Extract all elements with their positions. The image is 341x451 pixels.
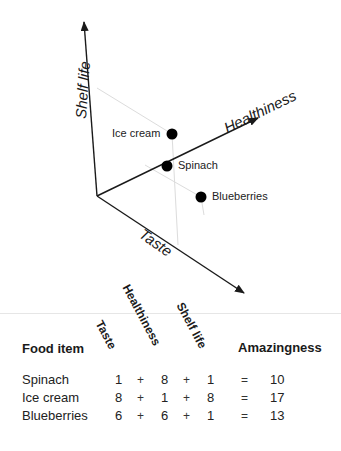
row-healthiness: 8 [161, 372, 168, 387]
3d-axes-diagram [0, 0, 341, 320]
row-healthiness: 6 [161, 408, 168, 423]
row-healthiness: 1 [161, 390, 168, 405]
row-taste: 1 [115, 372, 122, 387]
equals-sign: = [241, 409, 248, 423]
point-label-spinach: Spinach [178, 159, 218, 171]
divider [0, 313, 341, 314]
point-blueberries [196, 192, 207, 203]
row-item: Blueberries [22, 408, 88, 423]
plus-sign: + [183, 391, 190, 405]
row-taste: 6 [115, 408, 122, 423]
point-ice-cream [167, 129, 178, 140]
row-taste: 8 [115, 390, 122, 405]
header-taste: Taste [93, 318, 120, 351]
plus-sign: + [137, 391, 144, 405]
point-spinach [162, 161, 173, 172]
row-shelf-life: 1 [207, 408, 214, 423]
row-shelf-life: 8 [207, 390, 214, 405]
row-amazingness: 17 [270, 390, 284, 405]
plus-sign: + [183, 373, 190, 387]
plus-sign: + [183, 409, 190, 423]
row-item: Spinach [22, 372, 69, 387]
row-amazingness: 10 [270, 372, 284, 387]
header-food-item: Food item [22, 341, 84, 356]
point-label-blueberries: Blueberries [212, 190, 268, 202]
plus-sign: + [137, 373, 144, 387]
plus-sign: + [137, 409, 144, 423]
row-shelf-life: 1 [207, 372, 214, 387]
header-amazingness: Amazingness [238, 340, 322, 355]
row-amazingness: 13 [270, 408, 284, 423]
row-item: Ice cream [22, 390, 79, 405]
equals-sign: = [241, 373, 248, 387]
point-label-ice-cream: Ice cream [112, 127, 160, 139]
equals-sign: = [241, 391, 248, 405]
